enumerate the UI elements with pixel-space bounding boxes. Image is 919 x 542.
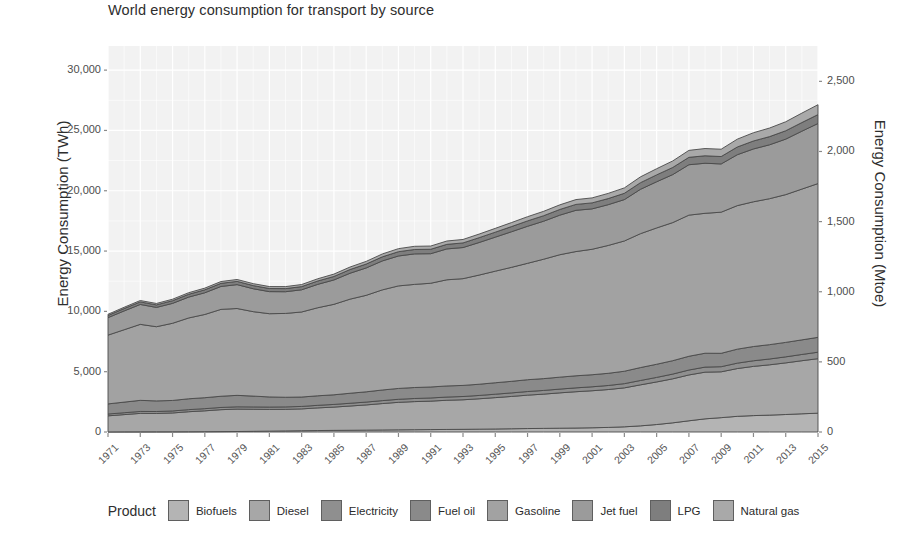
legend-swatch-icon <box>410 500 431 521</box>
legend-item-label: Gasoline <box>515 505 560 517</box>
legend-item-jet-fuel[interactable]: Jet fuel <box>572 500 637 521</box>
y-axis-left-tick-label: 0 <box>46 425 101 437</box>
legend-item-label: Jet fuel <box>600 505 637 517</box>
legend-title: Product <box>108 503 156 519</box>
legend-item-label: Natural gas <box>741 505 800 517</box>
legend-item-label: LPG <box>678 505 701 517</box>
legend-item-label: Fuel oil <box>438 505 475 517</box>
legend-swatch-icon <box>168 500 189 521</box>
chart-container: World energy consumption for transport b… <box>0 0 919 542</box>
legend-item-electricity[interactable]: Electricity <box>321 500 398 521</box>
y-axis-left-tick-label: 30,000 <box>46 63 101 75</box>
y-axis-left-tick-label: 10,000 <box>46 304 101 316</box>
y-axis-right-tick-label: 1,000 <box>827 285 855 297</box>
legend-item-natural-gas[interactable]: Natural gas <box>713 500 800 521</box>
legend-item-biofuels[interactable]: Biofuels <box>168 500 237 521</box>
y-axis-right-tick-label: 0 <box>827 425 833 437</box>
legend-swatch-icon <box>487 500 508 521</box>
y-axis-left-tick-label: 20,000 <box>46 184 101 196</box>
legend-item-label: Diesel <box>277 505 309 517</box>
legend-item-label: Electricity <box>349 505 398 517</box>
y-axis-left-tick-label: 5,000 <box>46 365 101 377</box>
legend-item-diesel[interactable]: Diesel <box>249 500 309 521</box>
y-axis-right-tick-label: 1,500 <box>827 215 855 227</box>
legend-item-fuel-oil[interactable]: Fuel oil <box>410 500 475 521</box>
legend-swatch-icon <box>572 500 593 521</box>
y-axis-right-tick-label: 500 <box>827 355 845 367</box>
legend-item-label: Biofuels <box>196 505 237 517</box>
legend-item-gasoline[interactable]: Gasoline <box>487 500 560 521</box>
legend-swatch-icon <box>321 500 342 521</box>
legend-swatch-icon <box>650 500 671 521</box>
y-axis-right-tick-label: 2,000 <box>827 144 855 156</box>
legend-items: BiofuelsDieselElectricityFuel oilGasolin… <box>168 500 811 521</box>
legend-swatch-icon <box>713 500 734 521</box>
y-axis-left-tick-label: 25,000 <box>46 123 101 135</box>
legend-item-lpg[interactable]: LPG <box>650 500 701 521</box>
legend: Product BiofuelsDieselElectricityFuel oi… <box>0 500 919 521</box>
y-axis-left-tick-label: 15,000 <box>46 244 101 256</box>
legend-swatch-icon <box>249 500 270 521</box>
y-axis-right-tick-label: 2,500 <box>827 74 855 86</box>
